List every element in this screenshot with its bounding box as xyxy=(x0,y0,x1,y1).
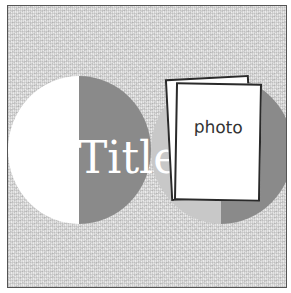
page-title[interactable]: Title xyxy=(78,136,179,180)
photo-label: photo xyxy=(177,116,259,137)
white-half-circle xyxy=(8,76,79,224)
photo-placeholder[interactable]: photo xyxy=(174,82,262,201)
